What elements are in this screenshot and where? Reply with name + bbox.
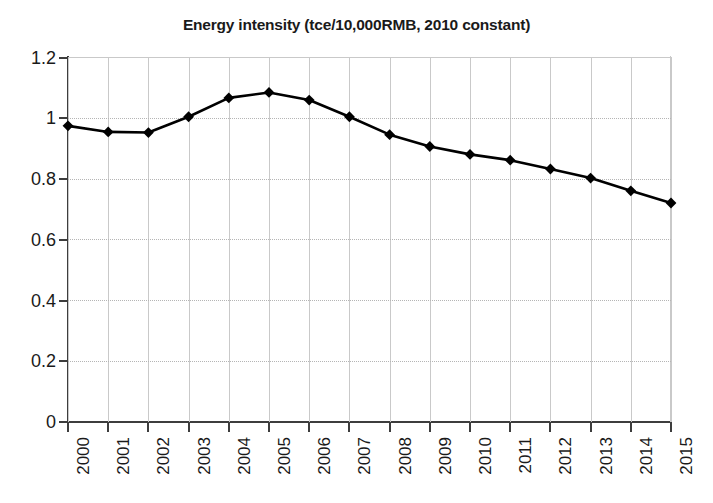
y-axis-tick-mark	[59, 57, 68, 59]
x-axis-tick-label: 2003	[195, 437, 215, 475]
x-axis-tick-mark	[67, 423, 69, 432]
x-axis-tick-mark	[549, 423, 551, 432]
x-axis-tick-label: 2006	[315, 437, 335, 475]
data-point-marker	[465, 149, 476, 160]
x-axis-tick-label: 2002	[154, 437, 174, 475]
x-axis-tick-mark	[429, 423, 431, 432]
series-markers-group	[63, 87, 677, 208]
y-axis-tick-mark	[59, 178, 68, 180]
x-axis-tick-mark	[509, 423, 511, 432]
x-axis-tick-label: 2014	[637, 437, 657, 475]
x-axis-tick-label: 2008	[396, 437, 416, 475]
data-point-marker	[625, 185, 636, 196]
data-point-marker	[384, 129, 395, 140]
data-point-marker	[585, 173, 596, 184]
y-axis-tick-mark	[59, 300, 68, 302]
x-axis-tick-mark	[389, 423, 391, 432]
data-point-marker	[103, 127, 114, 138]
y-axis-tick-mark	[59, 239, 68, 241]
data-point-marker	[143, 127, 154, 138]
x-axis-tick-label: 2011	[516, 437, 536, 474]
x-axis-tick-mark	[188, 423, 190, 432]
x-axis-tick-label: 2013	[597, 437, 617, 475]
x-axis-tick-mark	[228, 423, 230, 432]
x-axis-tick-mark	[348, 423, 350, 432]
data-point-marker	[264, 87, 275, 98]
x-axis-tick-mark	[147, 423, 149, 432]
x-axis-tick-mark	[469, 423, 471, 432]
x-axis-tick-label: 2010	[476, 437, 496, 475]
x-axis-tick-label: 2005	[275, 437, 295, 475]
x-axis-tick-label: 2007	[355, 437, 375, 475]
data-point-marker	[304, 95, 315, 106]
x-axis-tick-mark	[308, 423, 310, 432]
x-axis-tick-label: 2000	[74, 437, 94, 475]
x-axis-tick-mark	[590, 423, 592, 432]
x-axis-tick-label: 2004	[235, 437, 255, 475]
x-axis-tick-mark	[268, 423, 270, 432]
x-axis-tick-label: 2009	[436, 437, 456, 475]
data-point-marker	[666, 198, 677, 209]
x-axis-tick-mark	[670, 423, 672, 432]
data-point-marker	[344, 111, 355, 122]
x-axis-tick-label: 2001	[114, 437, 134, 475]
data-point-marker	[223, 92, 234, 103]
series-line-energy-intensity	[68, 92, 671, 203]
y-axis-tick-mark	[59, 117, 68, 119]
data-point-marker	[63, 120, 74, 131]
x-axis-tick-label: 2012	[556, 437, 576, 475]
data-point-marker	[545, 164, 556, 175]
data-point-marker	[424, 141, 435, 152]
y-axis-tick-mark	[59, 421, 68, 423]
x-axis-tick-mark	[107, 423, 109, 432]
x-axis-tick-mark	[630, 423, 632, 432]
data-point-marker	[183, 111, 194, 122]
energy-intensity-line-chart: Energy intensity (tce/10,000RMB, 2010 co…	[0, 0, 713, 503]
x-axis-tick-label: 2015	[677, 437, 697, 475]
data-point-marker	[505, 155, 516, 166]
y-axis-tick-mark	[59, 360, 68, 362]
